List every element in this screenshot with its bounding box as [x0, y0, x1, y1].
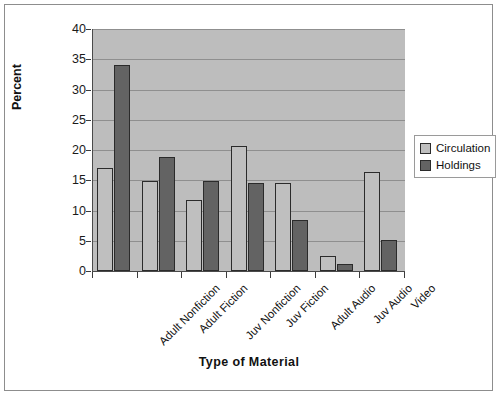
y-axis-tick-label: 10: [60, 205, 86, 218]
bar-holdings: [337, 264, 353, 271]
x-axis-tick-mark: [404, 272, 405, 278]
bar-group: [182, 29, 227, 271]
bar-circulation: [97, 168, 113, 271]
legend-label-holdings: Holdings: [436, 160, 481, 172]
y-axis-tick-labels: 0510152025303540: [56, 0, 86, 396]
x-axis-title: Type of Material: [0, 355, 498, 369]
bar-circulation: [231, 146, 247, 271]
y-axis-tick-mark: [86, 120, 91, 121]
x-axis-tick-mark: [137, 272, 138, 278]
y-axis-tick-mark: [86, 241, 91, 242]
legend-item-circulation: Circulation: [420, 143, 491, 155]
x-axis-tick-mark: [270, 272, 271, 278]
y-axis-tick-label: 15: [60, 174, 86, 187]
y-axis-tick-label: 20: [60, 144, 86, 157]
y-axis-tick-label: 5: [60, 235, 86, 248]
x-axis-tick-mark: [359, 272, 360, 278]
bar-group: [316, 29, 361, 271]
y-axis-tick-label: 30: [60, 84, 86, 97]
bar-holdings: [114, 65, 130, 271]
legend-swatch-holdings: [420, 160, 431, 171]
bar-group: [93, 29, 138, 271]
y-axis-tick-label: 25: [60, 114, 86, 127]
chart-page: Percent 0510152025303540 Adult Nonfictio…: [0, 0, 498, 396]
y-axis-tick-label: 35: [60, 53, 86, 66]
bar-group: [138, 29, 183, 271]
y-axis-tick-mark: [86, 59, 91, 60]
bar-group: [271, 29, 316, 271]
y-axis-tick-label: 0: [60, 265, 86, 278]
bar-circulation: [142, 181, 158, 271]
y-axis-tick-mark: [86, 211, 91, 212]
legend-swatch-circulation: [420, 143, 431, 154]
y-axis-tick-mark: [86, 90, 91, 91]
bar-group: [360, 29, 405, 271]
y-axis-tick-label: 40: [60, 23, 86, 36]
bar-holdings: [248, 183, 264, 271]
y-axis-tick-mark: [86, 180, 91, 181]
y-axis-tick-mark: [86, 271, 91, 272]
x-axis-tick-mark: [226, 272, 227, 278]
y-axis-tick-mark: [86, 29, 91, 30]
bar-holdings: [159, 157, 175, 271]
bar-group: [227, 29, 272, 271]
legend-label-circulation: Circulation: [436, 143, 490, 155]
legend-item-holdings: Holdings: [420, 160, 491, 172]
legend: Circulation Holdings: [414, 135, 496, 178]
bar-holdings: [203, 181, 219, 271]
y-axis-tick-mark: [86, 150, 91, 151]
bar-circulation: [320, 256, 336, 271]
bar-circulation: [186, 200, 202, 271]
bar-circulation: [364, 172, 380, 271]
y-axis-title: Percent: [10, 64, 24, 110]
bar-circulation: [275, 183, 291, 271]
bar-holdings: [292, 220, 308, 271]
x-axis-tick-mark: [92, 272, 93, 278]
bar-series-container: [93, 29, 405, 271]
x-axis-tick-mark: [181, 272, 182, 278]
bar-holdings: [381, 240, 397, 271]
x-axis-tick-mark: [315, 272, 316, 278]
plot-area: [92, 29, 405, 272]
